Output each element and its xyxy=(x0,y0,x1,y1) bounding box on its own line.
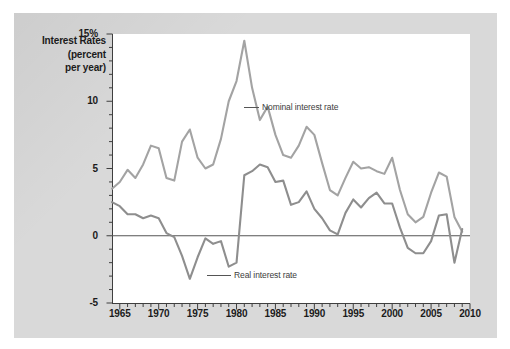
real-series-label: Real interest rate xyxy=(234,270,297,280)
nominal-series-label: Nominal interest rate xyxy=(262,102,338,112)
nominal-leader-line xyxy=(244,107,259,108)
series-line-nominal xyxy=(112,41,462,232)
chart-svg xyxy=(0,0,510,349)
real-leader-line xyxy=(207,275,231,276)
figure-root: Interest Rates (percent per year) -50510… xyxy=(0,0,510,349)
series-line-real xyxy=(112,164,462,278)
